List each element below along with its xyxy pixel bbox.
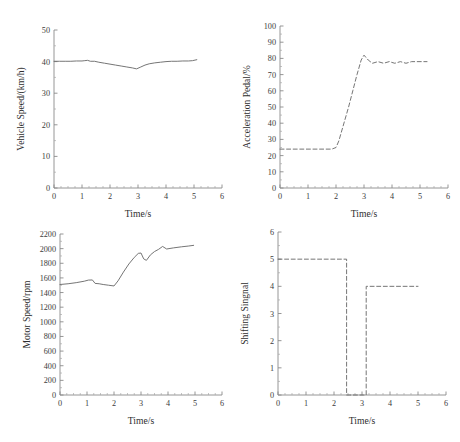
motor-speed-xtick-label: 3 (139, 399, 143, 408)
acceleration-pedal-yaxis-title: Acceleration Pedal/% (241, 65, 252, 148)
shifting-signal-ytick-label: 4 (270, 282, 274, 291)
shifting-signal-xaxis-title: Time/s (349, 415, 376, 426)
acceleration-pedal-ytick-label: 20 (268, 152, 276, 161)
motor-speed-ytick-label: 1000 (40, 318, 56, 327)
vehicle-speed-xtick-label: 5 (192, 192, 196, 201)
acceleration-pedal-ytick-label: 10 (268, 168, 276, 177)
chart-panel-acceleration-pedal: 01234560102030405060708090100Time/sAccel… (230, 8, 460, 220)
caption-remnant (0, 0, 460, 7)
acceleration-pedal-series (280, 55, 427, 149)
shifting-signal-xtick-label: 0 (276, 399, 280, 408)
vehicle-speed-plot: 012345601020304050Time/sVehicle Speed/(k… (0, 8, 230, 220)
acceleration-pedal-ytick-label: 40 (268, 119, 276, 128)
shifting-signal-series (278, 259, 418, 395)
acceleration-pedal-xtick-label: 4 (390, 192, 394, 201)
motor-speed-ytick-label: 1400 (40, 289, 56, 298)
motor-speed-xtick-label: 2 (112, 399, 116, 408)
chart-panel-motor-speed: 0123456020040060080010001200140016001800… (0, 218, 230, 438)
shifting-signal-ytick-label: 0 (270, 391, 274, 400)
chart-panel-shifting-signal: 01234560123456Time/sShifting Singnal (230, 218, 460, 438)
vehicle-speed-ytick-label: 10 (42, 152, 50, 161)
motor-speed-ytick-label: 400 (44, 362, 56, 371)
figure-container: 012345601020304050Time/sVehicle Speed/(k… (0, 0, 460, 442)
shifting-signal-xtick-label: 2 (332, 399, 336, 408)
motor-speed-ytick-label: 600 (44, 347, 56, 356)
acceleration-pedal-plot: 01234560102030405060708090100Time/sAccel… (230, 8, 460, 220)
acceleration-pedal-xtick-label: 1 (306, 192, 310, 201)
shifting-signal-ytick-label: 5 (270, 255, 274, 264)
vehicle-speed-xtick-label: 2 (108, 192, 112, 201)
shifting-signal-xtick-label: 1 (304, 399, 308, 408)
vehicle-speed-series (54, 60, 197, 69)
shifting-signal-ytick-label: 3 (270, 310, 274, 319)
vehicle-speed-ytick-label: 40 (42, 58, 50, 67)
motor-speed-ytick-label: 0 (52, 391, 56, 400)
motor-speed-plot: 0123456020040060080010001200140016001800… (0, 218, 230, 438)
motor-speed-xtick-label: 6 (220, 399, 224, 408)
motor-speed-ytick-label: 1800 (40, 259, 56, 268)
shifting-signal-xtick-label: 6 (444, 399, 448, 408)
motor-speed-ytick-label: 2000 (40, 245, 56, 254)
acceleration-pedal-xtick-label: 2 (334, 192, 338, 201)
motor-speed-ytick-label: 1600 (40, 274, 56, 283)
shifting-signal-yaxis-title: Shifting Singnal (239, 282, 250, 345)
shifting-signal-axes: 01234560123456 (270, 228, 448, 408)
shifting-signal-xtick-label: 5 (416, 399, 420, 408)
acceleration-pedal-xtick-label: 6 (446, 192, 450, 201)
vehicle-speed-ytick-label: 0 (46, 184, 50, 193)
vehicle-speed-xtick-label: 0 (52, 192, 56, 201)
acceleration-pedal-ytick-label: 50 (268, 103, 276, 112)
vehicle-speed-ytick-label: 50 (42, 26, 50, 35)
vehicle-speed-ytick-label: 30 (42, 89, 50, 98)
shifting-signal-ytick-label: 1 (270, 364, 274, 373)
vehicle-speed-xtick-label: 3 (136, 192, 140, 201)
shifting-signal-xtick-label: 3 (360, 399, 364, 408)
motor-speed-xaxis-title: Time/s (128, 415, 155, 426)
acceleration-pedal-ytick-label: 60 (268, 87, 276, 96)
motor-speed-xtick-label: 4 (166, 399, 170, 408)
acceleration-pedal-ytick-label: 0 (272, 184, 276, 193)
vehicle-speed-xtick-label: 6 (220, 192, 224, 201)
shifting-signal-ytick-label: 6 (270, 228, 274, 237)
acceleration-pedal-xtick-label: 0 (278, 192, 282, 201)
shifting-signal-xtick-label: 4 (388, 399, 392, 408)
motor-speed-xtick-label: 0 (58, 399, 62, 408)
acceleration-pedal-axes: 01234560102030405060708090100 (264, 22, 450, 201)
vehicle-speed-ytick-label: 20 (42, 121, 50, 130)
acceleration-pedal-xtick-label: 3 (362, 192, 366, 201)
motor-speed-ytick-label: 800 (44, 332, 56, 341)
motor-speed-series (60, 245, 194, 286)
motor-speed-xtick-label: 1 (85, 399, 89, 408)
acceleration-pedal-ytick-label: 100 (264, 22, 276, 31)
vehicle-speed-axes: 012345601020304050 (42, 26, 224, 201)
acceleration-pedal-ytick-label: 80 (268, 54, 276, 63)
chart-panel-vehicle-speed: 012345601020304050Time/sVehicle Speed/(k… (0, 8, 230, 220)
motor-speed-xtick-label: 5 (193, 399, 197, 408)
shifting-signal-plot: 01234560123456Time/sShifting Singnal (230, 218, 460, 438)
acceleration-pedal-ytick-label: 70 (268, 71, 276, 80)
vehicle-speed-yaxis-title: Vehicle Speed/(km/h) (15, 67, 27, 150)
motor-speed-axes: 0123456020040060080010001200140016001800… (40, 230, 224, 408)
acceleration-pedal-ytick-label: 30 (268, 135, 276, 144)
vehicle-speed-xtick-label: 4 (164, 192, 168, 201)
acceleration-pedal-ytick-label: 90 (268, 38, 276, 47)
motor-speed-ytick-label: 1200 (40, 303, 56, 312)
shifting-signal-ytick-label: 2 (270, 337, 274, 346)
motor-speed-ytick-label: 2200 (40, 230, 56, 239)
acceleration-pedal-xtick-label: 5 (418, 192, 422, 201)
motor-speed-yaxis-title: Motor Speed/rpm (21, 280, 32, 348)
vehicle-speed-xtick-label: 1 (80, 192, 84, 201)
motor-speed-ytick-label: 200 (44, 376, 56, 385)
